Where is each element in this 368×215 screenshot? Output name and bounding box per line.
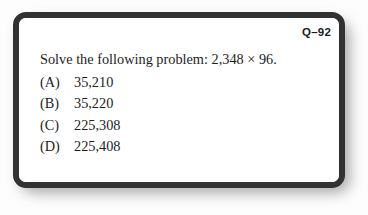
answer-option-a-value: 35,210 — [71, 74, 113, 91]
question-prompt: Solve the following problem: 2,348 × 96. — [40, 51, 329, 69]
question-id-label: Q–92 — [302, 27, 331, 39]
question-body: Solve the following problem: 2,348 × 96.… — [40, 51, 329, 160]
answer-option-b-value: 35,220 — [71, 95, 113, 112]
answer-options-list: (A) 35,210 (B) 35,220 (C) 225,308 (D) 22… — [40, 74, 329, 160]
answer-option-d-label: (D) — [40, 138, 71, 155]
question-card-inner: Q–92 Solve the following problem: 2,348 … — [19, 18, 339, 182]
page-root: Q–92 Solve the following problem: 2,348 … — [0, 0, 368, 215]
answer-option-c[interactable]: (C) 225,308 — [40, 117, 329, 139]
answer-option-c-label: (C) — [40, 117, 71, 134]
answer-option-b-label: (B) — [40, 95, 71, 112]
answer-option-c-value: 225,308 — [71, 117, 120, 134]
answer-option-d[interactable]: (D) 225,408 — [40, 138, 329, 160]
answer-option-a[interactable]: (A) 35,210 — [40, 74, 329, 96]
answer-option-d-value: 225,408 — [71, 138, 120, 155]
answer-option-a-label: (A) — [40, 74, 71, 91]
answer-option-b[interactable]: (B) 35,220 — [40, 95, 329, 117]
question-card: Q–92 Solve the following problem: 2,348 … — [13, 12, 345, 188]
